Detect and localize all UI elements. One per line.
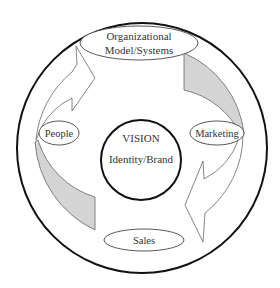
- sales-label: Sales: [133, 235, 155, 246]
- org-label-line2: Model/Systems: [105, 44, 173, 56]
- vision-node: VISION Identity/Brand: [101, 120, 181, 200]
- outline-arrow-marketing-to-sales: [185, 135, 243, 242]
- people-node: People: [39, 121, 79, 145]
- sales-node: Sales: [104, 229, 184, 251]
- people-label: People: [45, 128, 74, 139]
- shaded-flow-sales-to-people: [35, 140, 95, 230]
- vision-subtitle: Identity/Brand: [109, 153, 174, 165]
- org-node: Organizational Model/Systems: [80, 26, 198, 60]
- marketing-node: Marketing: [190, 121, 244, 145]
- marketing-label: Marketing: [195, 128, 239, 139]
- vision-cycle-diagram: VISION Identity/Brand Organizational Mod…: [0, 0, 280, 288]
- org-label-line1: Organizational: [106, 30, 171, 42]
- vision-title: VISION: [122, 132, 159, 144]
